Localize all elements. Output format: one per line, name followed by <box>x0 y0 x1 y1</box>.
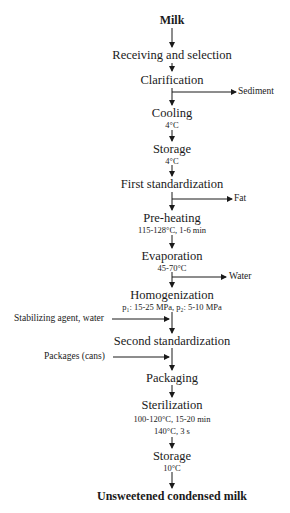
sterilization-detail-2: 140°C, 3 s <box>154 427 190 436</box>
input-packages: Packages (cans) <box>44 352 105 362</box>
step-sterilization: Sterilization <box>141 399 202 412</box>
step-packaging: Packaging <box>146 372 198 385</box>
pre-heating-detail: 115-128°C, 1-6 min <box>138 226 206 235</box>
cooling-detail: 4°C <box>165 121 178 130</box>
output-fat: Fat <box>234 194 246 204</box>
step-pre-heating: Pre-heating <box>143 212 201 225</box>
start-node-milk: Milk <box>160 14 185 26</box>
evaporation-detail: 45-70°C <box>158 264 187 273</box>
output-water: Water <box>229 272 251 282</box>
step-storage-1: Storage <box>153 143 191 156</box>
end-node-product: Unsweetened condensed milk <box>97 490 247 502</box>
step-storage-2: Storage <box>153 450 191 463</box>
homogenization-detail: p₁: 15-25 MPa, p₂: 5-10 MPa <box>122 303 221 312</box>
storage-1-detail: 4°C <box>165 157 178 166</box>
sterilization-detail-1: 100-120°C, 15-20 min <box>134 415 211 424</box>
output-sediment: Sediment <box>238 87 274 97</box>
step-cooling: Cooling <box>152 107 192 120</box>
step-evaporation: Evaporation <box>141 250 202 263</box>
input-stabilizing-agent: Stabilizing agent, water <box>14 314 104 324</box>
step-receiving: Receiving and selection <box>112 49 231 62</box>
storage-2-detail: 10°C <box>163 464 181 473</box>
step-homogenization: Homogenization <box>130 289 213 302</box>
step-clarification: Clarification <box>140 74 203 87</box>
step-second-standardization: Second standardization <box>114 335 230 348</box>
step-first-standardization: First standardization <box>121 178 223 191</box>
